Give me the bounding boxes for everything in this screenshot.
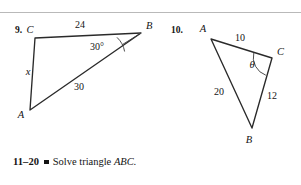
vertex-label-c-10: C — [277, 46, 285, 57]
side-label-12: 12 — [267, 90, 277, 101]
directive-instruction: Solve triangle — [53, 156, 112, 167]
triangle-10-outline — [211, 39, 272, 128]
vertex-label-a-10: A — [199, 23, 207, 34]
directive-triangle-name: ABC. — [114, 156, 136, 167]
exercise-directive: 11–20Solve triangle ABC. — [13, 157, 136, 168]
textbook-page: 9. 10. C B A 24 x 30 30° A C B 10 20 12 — [0, 0, 301, 185]
side-label-10: 10 — [235, 32, 245, 43]
vertex-label-b-10: B — [246, 134, 253, 145]
angle-label-theta: θ — [249, 59, 254, 70]
side-label-20: 20 — [214, 86, 224, 97]
exercise-range: 11–20 — [13, 156, 39, 167]
square-bullet-icon — [44, 160, 49, 165]
